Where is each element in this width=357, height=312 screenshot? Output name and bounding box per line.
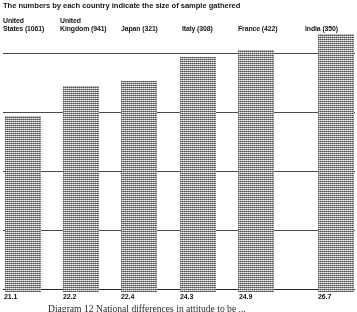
column-header-italy: Italy (308) <box>182 25 213 33</box>
value-label-italy: 24.3 <box>180 293 193 300</box>
bar-united-states <box>5 116 41 292</box>
bar-france <box>238 50 274 292</box>
value-label-united-kingdom: 22.2 <box>63 293 76 300</box>
column-header-united-states: United States (1061) <box>3 17 44 32</box>
bar-united-kingdom <box>63 86 99 292</box>
plot-area <box>0 40 357 292</box>
bar-japan <box>121 81 157 292</box>
column-header-united-kingdom: United Kingdom (941) <box>60 17 107 32</box>
chart-page: The numbers by each country indicate the… <box>0 0 357 312</box>
value-label-france: 24.9 <box>239 293 252 300</box>
axis-baseline <box>3 289 355 290</box>
figure-caption: Diagram 12 National differences in attit… <box>48 303 348 312</box>
gridline-top <box>3 53 355 54</box>
column-header-india: India (350) <box>305 25 338 33</box>
chart-note: The numbers by each country indicate the… <box>3 1 240 10</box>
gridline-3 <box>3 171 355 172</box>
column-header-japan: Japan (321) <box>121 25 158 33</box>
bar-india <box>318 34 354 292</box>
bar-italy <box>180 57 216 292</box>
value-label-japan: 22.4 <box>121 293 134 300</box>
value-label-india: 26.7 <box>318 293 331 300</box>
column-header-france: France (422) <box>238 25 277 33</box>
gridline-4 <box>3 230 355 231</box>
gridline-2 <box>3 112 355 113</box>
value-label-united-states: 21.1 <box>4 293 17 300</box>
